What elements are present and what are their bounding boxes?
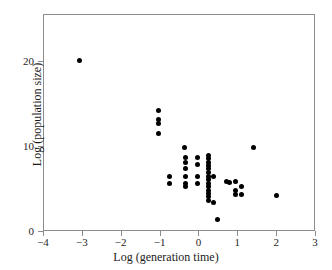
plot-frame — [43, 14, 315, 231]
y-axis-tick-label: 0 — [8, 225, 34, 237]
x-axis-tick-label: 1 — [225, 236, 249, 249]
scatter-plot-figure: −4−3−2−1012301020 Log (generation time) … — [0, 0, 332, 270]
x-axis-tick-label: −1 — [148, 236, 172, 249]
x-axis-label: Log (generation time) — [0, 250, 332, 265]
x-axis-tick-label: 2 — [264, 236, 288, 249]
x-axis-tick-label: 3 — [303, 236, 327, 249]
x-axis-tick-label: −3 — [70, 236, 94, 249]
x-axis-tick-label: −2 — [109, 236, 133, 249]
x-axis-tick-label: 0 — [186, 236, 210, 249]
y-axis-tick-mark — [38, 231, 43, 232]
x-axis-tick-label: −4 — [31, 236, 55, 249]
y-axis-label: Log (population size) — [30, 15, 45, 215]
